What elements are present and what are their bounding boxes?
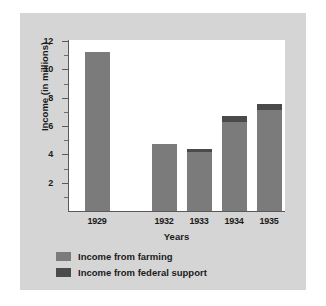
y-tick-major: 10 <box>62 69 68 70</box>
bar-segment-farming <box>85 52 110 211</box>
y-tick-major: 4 <box>62 154 68 155</box>
x-tick-label-1934: 1934 <box>214 216 254 226</box>
x-axis-title: Years <box>68 231 285 242</box>
y-tick-label: 2 <box>48 178 53 188</box>
plot-area: 24681012 19291932193319341935 <box>68 40 285 212</box>
y-tick-minor <box>64 169 68 170</box>
legend-label-federal-support: Income from federal support <box>78 267 207 278</box>
y-tick-minor <box>64 55 68 56</box>
x-tick-label-1933: 1933 <box>179 216 219 226</box>
y-tick-minor <box>64 84 68 85</box>
y-tick-major: 2 <box>62 183 68 184</box>
y-tick-minor <box>64 140 68 141</box>
bar-segment-farming <box>222 122 247 211</box>
legend-swatch-farming <box>56 252 71 261</box>
x-axis-line <box>68 211 285 212</box>
y-tick-minor <box>64 112 68 113</box>
legend-item-farming: Income from farming <box>56 251 207 262</box>
y-axis-title: Income (in millions) <box>39 22 50 152</box>
y-axis-line <box>68 40 69 212</box>
y-tick-major: 6 <box>62 126 68 127</box>
bar-segment-farming <box>152 144 177 211</box>
bar-segment-farming <box>257 110 282 211</box>
y-tick-major: 8 <box>62 98 68 99</box>
figure-panel: 24681012 19291932193319341935 Income (in… <box>20 13 306 290</box>
y-tick-major: 12 <box>62 41 68 42</box>
x-tick-label-1932: 1932 <box>144 216 184 226</box>
bar-1932[interactable] <box>152 144 177 211</box>
bar-1929[interactable] <box>85 52 110 211</box>
legend-item-federal-support: Income from federal support <box>56 267 207 278</box>
x-tick-label-1929: 1929 <box>77 216 117 226</box>
legend-swatch-federal-support <box>56 268 71 277</box>
bar-1935[interactable] <box>257 104 282 211</box>
bar-1933[interactable] <box>187 149 212 211</box>
y-tick-minor <box>64 197 68 198</box>
bar-1934[interactable] <box>222 116 247 211</box>
chart-legend: Income from farming Income from federal … <box>56 251 207 283</box>
x-tick-label-1935: 1935 <box>249 216 289 226</box>
legend-label-farming: Income from farming <box>78 251 173 262</box>
bar-segment-farming <box>187 152 212 211</box>
